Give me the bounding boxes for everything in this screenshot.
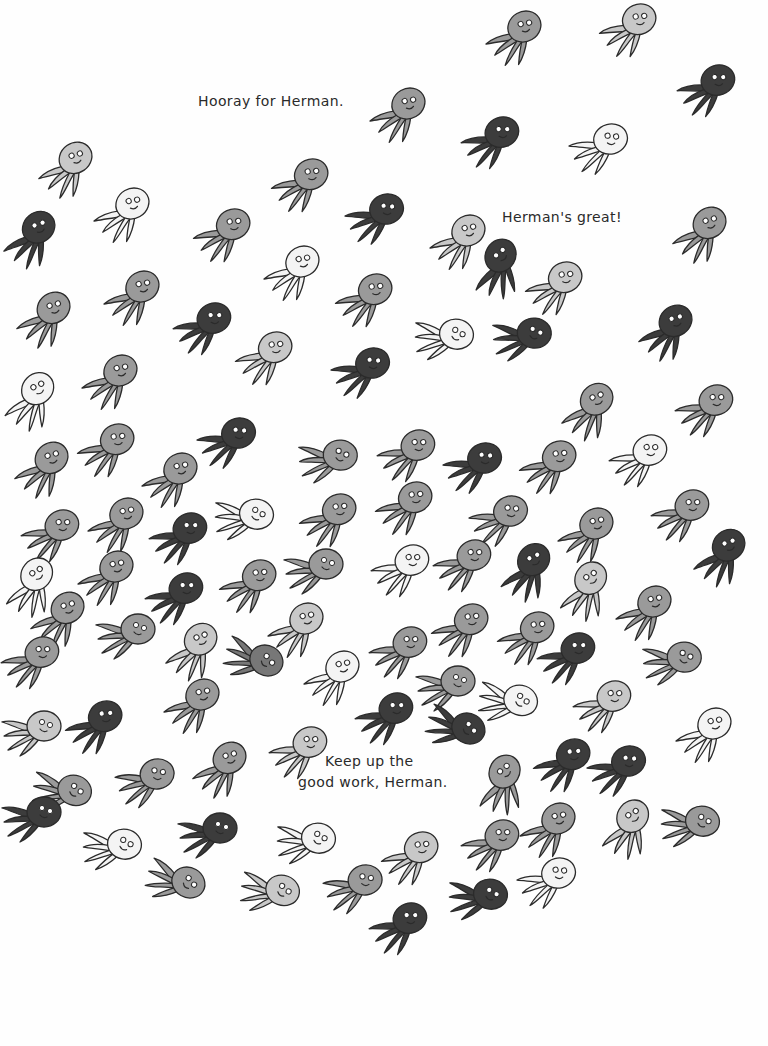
octopus-dark (488, 305, 557, 366)
octopus-mid (261, 144, 343, 222)
octopus-dark (0, 788, 64, 844)
octopus-mid (70, 340, 153, 420)
octopus-mid (654, 790, 727, 856)
caption-keep-up-line2: good work, Herman. (298, 773, 448, 791)
octopus-white (82, 173, 165, 253)
octopus-white (362, 531, 441, 606)
octopus-white (408, 303, 481, 369)
octopus-mid (474, 0, 557, 76)
octopus-mid (4, 277, 89, 360)
octopus-mid (183, 194, 265, 272)
octopus-dark (338, 181, 414, 252)
octopus-mid (666, 371, 745, 446)
caption-hooray: Hooray for Herman. (198, 92, 344, 110)
octopus-dark (668, 51, 747, 126)
octopus-mid (325, 259, 407, 337)
caption-keep-up-line1: Keep up the (325, 752, 414, 770)
octopus-light (0, 702, 64, 758)
octopus-dark (580, 733, 656, 804)
octopus-dark (442, 863, 515, 929)
octopus-mid (180, 727, 265, 810)
octopus-mid (92, 256, 175, 336)
octopus-dark (55, 686, 137, 764)
octopus-white (0, 358, 74, 443)
octopus-white (562, 111, 638, 182)
octopus-mid (294, 427, 363, 488)
octopus-dark (452, 103, 531, 178)
octopus-white (664, 693, 747, 773)
octopus-dark (626, 290, 711, 373)
octopus-mid (94, 605, 158, 661)
octopus-dark (140, 499, 219, 574)
octopus-mid (282, 540, 346, 596)
octopus-mid (660, 192, 745, 275)
octopus-white (76, 813, 149, 879)
illustration-page: Hooray for Herman. Herman's great! Keep … (0, 0, 768, 1046)
octopus-mid (638, 629, 707, 690)
octopus-white (600, 421, 679, 496)
caption-hermans-great: Herman's great! (502, 208, 622, 226)
octopus-white (252, 231, 335, 311)
octopus-dark (176, 804, 240, 860)
octopus-mid (358, 73, 441, 153)
octopus-dark (0, 196, 75, 280)
octopus-mid (110, 747, 183, 813)
octopus-white (208, 483, 281, 549)
octopus-light (589, 0, 671, 67)
octopus-mid (365, 467, 447, 545)
octopus-dark (324, 335, 400, 406)
